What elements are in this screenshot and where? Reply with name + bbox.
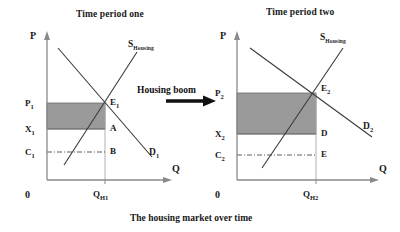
- x-axis-arrow-1: [163, 177, 172, 183]
- panel-time-period-one: [44, 31, 172, 184]
- y-axis-arrow-2: [234, 31, 240, 40]
- price-tick-p1: P1: [25, 99, 34, 110]
- shaded-region-2: [237, 93, 316, 134]
- price-tick-x1: X1: [25, 125, 35, 136]
- point-label-b: B: [110, 147, 116, 156]
- x-axis-label-two: Q: [379, 164, 387, 174]
- demand-label-main: D: [149, 147, 156, 157]
- supply-label-sub: Housing: [133, 45, 154, 51]
- price-tick-c1: C1: [25, 148, 35, 159]
- quantity-tick-qh1: QH1: [93, 190, 108, 201]
- demand2-label-main: D: [363, 121, 370, 131]
- e1-sub: 1: [116, 102, 119, 109]
- x1-sub: 1: [32, 129, 35, 136]
- p1-sub: 1: [31, 103, 34, 110]
- x2-sub: 2: [222, 134, 225, 141]
- x-axis-label-one: Q: [172, 164, 180, 174]
- p2-sub: 2: [221, 93, 224, 100]
- origin-label-two: 0: [215, 190, 220, 200]
- c2-sub: 2: [222, 155, 225, 162]
- qh1-sub: H1: [100, 194, 108, 201]
- supply-curve-label-two: SHousing: [320, 33, 346, 44]
- panel-title-two: Time period two: [266, 8, 334, 18]
- origin-label-one: 0: [25, 190, 30, 200]
- y-axis-arrow-1: [44, 31, 50, 40]
- quantity-tick-qh2: QH2: [303, 190, 318, 201]
- point-label-e: E: [321, 150, 327, 159]
- housing-market-figure: Time period one P Q 0 SHousing D1 P1 X1 …: [0, 0, 400, 232]
- demand-label-sub: 1: [156, 152, 159, 159]
- e2-sub: 2: [327, 88, 330, 95]
- housing-boom-label: Housing boom: [137, 85, 196, 95]
- c1-sub: 1: [32, 152, 35, 159]
- point-label-d: D: [321, 129, 328, 138]
- demand-curve-label-two: D2: [363, 122, 373, 133]
- qh1-main: Q: [93, 189, 100, 199]
- price-tick-c2: C2: [215, 151, 225, 162]
- housing-boom-arrow: [166, 96, 216, 107]
- demand2-label-sub: 2: [370, 126, 373, 133]
- y-axis-label-two: P: [220, 31, 226, 41]
- qh2-sub: H2: [310, 194, 318, 201]
- panel-title-one: Time period one: [76, 10, 144, 20]
- point-label-a: A: [110, 124, 117, 133]
- figure-caption: The housing market over time: [130, 213, 252, 223]
- x-axis-arrow-2: [370, 177, 379, 183]
- y-axis-label-one: P: [30, 31, 36, 41]
- demand-curve-label-one: D1: [149, 148, 159, 159]
- supply-curve-label-one: SHousing: [128, 40, 154, 51]
- qh2-main: Q: [303, 189, 310, 199]
- point-label-e2: E2: [321, 84, 330, 95]
- price-tick-p2: P2: [215, 89, 224, 100]
- price-tick-x2: X2: [215, 130, 225, 141]
- supply2-label-sub: Housing: [325, 38, 346, 44]
- panel-time-period-two: [234, 31, 379, 184]
- point-label-e1: E1: [110, 98, 119, 109]
